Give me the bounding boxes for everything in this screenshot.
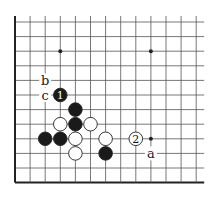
point-label: a xyxy=(147,146,155,161)
black-stone xyxy=(99,147,113,161)
black-stone xyxy=(69,117,83,131)
white-stone xyxy=(84,117,98,131)
star-point-icon xyxy=(149,49,153,53)
white-stone: 2 xyxy=(129,132,143,146)
white-stone xyxy=(99,132,113,146)
point-label: c xyxy=(42,88,49,103)
white-stone xyxy=(69,132,83,146)
go-board: bca 12 xyxy=(0,0,216,197)
black-stone xyxy=(69,103,83,117)
white-stone xyxy=(69,147,83,161)
white-stone xyxy=(54,117,68,131)
move-number: 1 xyxy=(57,89,64,102)
star-point-icon xyxy=(58,49,62,53)
point-label: b xyxy=(41,73,49,88)
move-number: 2 xyxy=(132,133,139,146)
star-point-icon xyxy=(149,137,153,141)
point-labels: bca xyxy=(39,73,157,161)
black-stone xyxy=(54,132,68,146)
black-stone: 1 xyxy=(54,88,68,102)
black-stone xyxy=(38,132,52,146)
